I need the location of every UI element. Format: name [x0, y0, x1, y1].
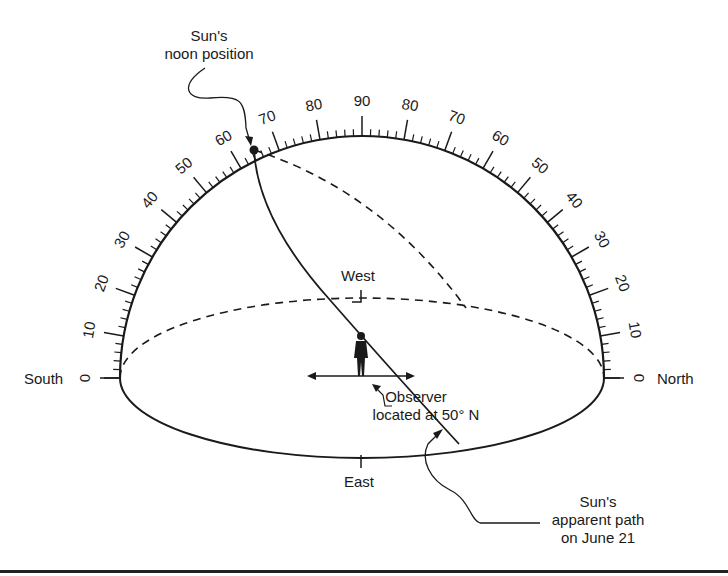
- major-tick: [404, 120, 407, 140]
- noon-label-line2: noon position: [164, 45, 253, 62]
- minor-tick: [504, 177, 508, 183]
- minor-tick: [177, 211, 182, 216]
- minor-tick: [524, 193, 529, 198]
- major-tick: [231, 151, 241, 168]
- west-label: West: [341, 267, 376, 284]
- major-tick: [589, 288, 608, 295]
- minor-tick: [586, 285, 592, 288]
- minor-tick: [599, 326, 606, 327]
- minor-tick: [285, 141, 287, 148]
- minor-tick: [261, 151, 264, 157]
- path-label-line2: apparent path: [552, 511, 645, 528]
- minor-tick: [245, 158, 248, 164]
- major-tick: [317, 120, 320, 140]
- major-tick: [104, 333, 124, 336]
- scale-label: 70: [446, 106, 467, 128]
- path-label-line1: Sun's: [579, 493, 616, 510]
- minor-tick: [576, 261, 582, 264]
- scale-label: 0: [631, 374, 648, 382]
- minor-tick: [209, 182, 213, 188]
- minor-tick: [125, 301, 132, 303]
- minor-tick: [476, 158, 479, 164]
- minor-tick: [553, 225, 559, 229]
- minor-tick: [183, 205, 188, 210]
- minor-tick: [142, 261, 148, 264]
- minor-tick: [468, 154, 471, 160]
- scale-label: 40: [563, 188, 587, 212]
- minor-tick: [511, 182, 515, 188]
- east-label: East: [344, 473, 375, 490]
- minor-tick: [216, 177, 220, 183]
- minor-tick: [567, 246, 573, 250]
- major-tick: [135, 247, 152, 257]
- minor-tick: [497, 172, 501, 178]
- scale-label: 30: [110, 228, 133, 251]
- scale-label: 20: [612, 272, 634, 293]
- minor-tick: [138, 269, 144, 272]
- minor-tick: [131, 285, 137, 288]
- major-tick: [445, 132, 452, 151]
- minor-tick: [135, 277, 141, 280]
- minor-tick: [437, 141, 439, 148]
- major-tick: [518, 177, 531, 192]
- minor-tick: [189, 199, 194, 204]
- scale-label: 30: [591, 228, 614, 251]
- minor-tick: [195, 193, 200, 198]
- minor-tick: [293, 139, 295, 146]
- minor-tick: [161, 232, 167, 236]
- major-tick: [600, 333, 620, 336]
- major-tick: [194, 177, 207, 192]
- minor-tick: [530, 199, 535, 204]
- minor-tick: [421, 136, 423, 143]
- celestial-dome-diagram: 010203040506070809080706050403020100 Sou…: [0, 0, 728, 576]
- scale-label: 60: [212, 126, 235, 149]
- major-tick: [116, 288, 135, 295]
- major-tick: [161, 210, 176, 223]
- scale-label: 60: [489, 126, 512, 149]
- horizon-front: [120, 378, 604, 458]
- minor-tick: [302, 136, 304, 143]
- minor-tick: [269, 147, 272, 153]
- minor-tick: [336, 130, 337, 137]
- minor-tick: [542, 211, 547, 216]
- minor-tick: [580, 269, 586, 272]
- minor-tick: [595, 309, 602, 311]
- minor-tick: [453, 147, 456, 153]
- sun-noon-marker: [250, 146, 259, 155]
- scale-label: 50: [529, 154, 553, 178]
- minor-tick: [602, 343, 609, 344]
- minor-tick: [115, 343, 122, 344]
- minor-tick: [123, 309, 130, 311]
- bottom-rule: [0, 570, 728, 573]
- minor-tick: [412, 134, 413, 141]
- minor-tick: [387, 130, 388, 137]
- minor-tick: [583, 277, 589, 280]
- minor-tick: [230, 167, 234, 173]
- major-tick: [547, 210, 562, 223]
- minor-tick: [563, 239, 569, 243]
- minor-tick: [114, 352, 121, 353]
- scale-label: 20: [90, 272, 112, 293]
- south-label: South: [24, 370, 63, 387]
- major-tick: [572, 247, 589, 257]
- minor-tick: [156, 239, 162, 243]
- noon-label-line1: Sun's: [190, 27, 227, 44]
- minor-tick: [327, 131, 328, 138]
- minor-tick: [151, 246, 157, 250]
- scale-label: 10: [625, 320, 645, 339]
- minor-tick: [490, 167, 494, 173]
- minor-tick: [460, 151, 463, 157]
- noon-callout-arrowhead: [245, 136, 253, 146]
- west-marker: [352, 290, 361, 302]
- minor-tick: [118, 326, 125, 327]
- observer-label-line2: located at 50° N: [373, 406, 480, 423]
- minor-tick: [597, 318, 604, 320]
- observer-callout-arrowhead: [372, 384, 381, 392]
- scale-label: 0: [76, 374, 93, 382]
- minor-tick: [603, 352, 610, 353]
- minor-tick: [536, 205, 541, 210]
- minor-tick: [592, 301, 599, 303]
- scale-label: 70: [256, 106, 277, 128]
- major-tick: [483, 151, 493, 168]
- minor-tick: [166, 225, 172, 229]
